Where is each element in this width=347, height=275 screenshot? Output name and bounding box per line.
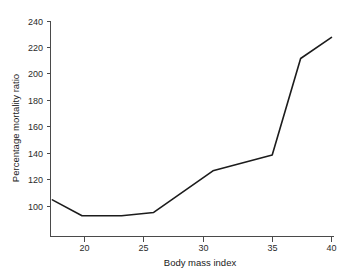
y-tick-label-220: 220 (28, 43, 43, 53)
y-tick-label-120: 120 (28, 175, 43, 185)
chart-container: 240 220 200 180 160 140 120 100 20 25 30… (0, 0, 347, 275)
line-chart: 240 220 200 180 160 140 120 100 20 25 30… (0, 0, 347, 275)
y-tick-label-100: 100 (28, 202, 43, 212)
y-tick-label-200: 200 (28, 69, 43, 79)
chart-background (0, 0, 347, 275)
x-tick-label-40: 40 (326, 243, 336, 253)
x-tick-label-20: 20 (79, 243, 89, 253)
y-tick-label-180: 180 (28, 96, 43, 106)
y-tick-label-140: 140 (28, 149, 43, 159)
x-tick-label-30: 30 (198, 243, 208, 253)
x-tick-label-35: 35 (267, 243, 277, 253)
y-tick-label-160: 160 (28, 122, 43, 132)
x-tick-label-25: 25 (138, 243, 148, 253)
y-axis-title: Percentage mortality ratio (10, 74, 21, 182)
x-axis-title: Body mass index (164, 257, 237, 268)
y-tick-label-240: 240 (28, 17, 43, 27)
